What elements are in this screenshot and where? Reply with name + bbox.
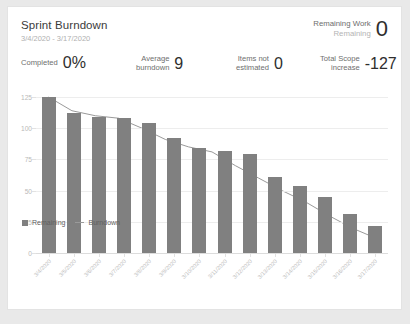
kpi-completed-label-line1: Completed (21, 58, 58, 67)
y-axis-tick-label: 0 (28, 250, 32, 257)
chart-legend: RemainingBurndown (22, 219, 120, 226)
chart-bar[interactable] (293, 186, 307, 253)
remaining-work-label-secondary: Remaining (313, 29, 371, 39)
chart-bar[interactable] (218, 151, 232, 253)
chart-bar[interactable] (243, 154, 257, 253)
x-axis-tick-label: 3/11/2020 (206, 258, 228, 280)
kpi-total-scope-increase-value: -127 (365, 55, 397, 72)
x-axis-tick-mark (250, 254, 251, 257)
y-axis-tick-label: 50 (25, 187, 32, 194)
remaining-work-value: 0 (376, 18, 388, 40)
x-axis-tick-label: 3/17/2020 (357, 258, 379, 280)
kpi-total-scope-increase: Total Scope increase -127 (320, 54, 397, 72)
kpi-completed-label: Completed (21, 58, 58, 67)
y-axis-tick-label: 125 (21, 94, 32, 101)
chart-bar[interactable] (192, 148, 206, 253)
kpi-items-not-estimated-label-line1: Items not (236, 54, 269, 63)
remaining-work-labels: Remaining Work Remaining (313, 18, 371, 39)
x-axis-tick-mark (174, 254, 175, 257)
kpi-total-scope-increase-label-line2: increase (320, 63, 360, 72)
x-axis-tick-label: 3/4/2020 (32, 258, 52, 278)
kpi-items-not-estimated: Items not estimated 0 (236, 54, 283, 72)
widget-header: Sprint Burndown 3/4/2020 - 3/17/2020 Rem… (8, 7, 401, 83)
chart-bar[interactable] (368, 226, 382, 253)
grid-line (36, 253, 388, 254)
x-axis-tick-label: 3/10/2020 (181, 258, 203, 280)
chart-bar[interactable] (92, 117, 106, 253)
remaining-work-summary: Remaining Work Remaining 0 (313, 18, 388, 46)
burndown-chart: 02550751001253/4/20203/5/20203/6/20203/7… (8, 83, 401, 309)
y-axis-tick-mark (32, 191, 36, 192)
x-axis-tick-label: 3/14/2020 (281, 258, 303, 280)
kpi-average-burndown: Average burndown 9 (136, 54, 183, 72)
legend-label: Burndown (88, 219, 120, 226)
grid-line (36, 159, 388, 160)
kpi-total-scope-increase-label: Total Scope increase (320, 54, 360, 72)
x-axis-tick-mark (325, 254, 326, 257)
y-axis-tick-label: 75 (25, 156, 32, 163)
x-axis-tick-mark (275, 254, 276, 257)
x-axis-tick-mark (225, 254, 226, 257)
y-axis-tick-mark (32, 253, 36, 254)
chart-bar[interactable] (42, 97, 56, 253)
kpi-items-not-estimated-label-line2: estimated (236, 63, 269, 72)
kpi-average-burndown-value: 9 (174, 55, 183, 72)
chart-bar[interactable] (268, 177, 282, 253)
y-axis-tick-mark (32, 97, 36, 98)
x-axis-tick-label: 3/7/2020 (108, 258, 128, 278)
x-axis-tick-label: 3/5/2020 (57, 258, 77, 278)
x-axis-tick-mark (74, 254, 75, 257)
x-axis-tick-label: 3/6/2020 (82, 258, 102, 278)
y-axis-tick-label: 100 (21, 125, 32, 132)
x-axis-tick-label: 3/15/2020 (307, 258, 329, 280)
legend-square-icon (22, 220, 28, 226)
x-axis-tick-mark (350, 254, 351, 257)
x-axis-tick-mark (375, 254, 376, 257)
grid-line (36, 97, 388, 98)
chart-bar[interactable] (343, 214, 357, 253)
grid-line (36, 191, 388, 192)
legend-item-remaining[interactable]: Remaining (22, 219, 65, 226)
kpi-total-scope-increase-label-line1: Total Scope (320, 54, 360, 63)
kpi-items-not-estimated-label: Items not estimated (236, 54, 269, 72)
date-range: 3/4/2020 - 3/17/2020 (21, 34, 90, 43)
kpi-average-burndown-label-line1: Average (136, 54, 169, 63)
x-axis-tick-mark (124, 254, 125, 257)
x-axis-tick-label: 3/16/2020 (332, 258, 354, 280)
chart-bar[interactable] (117, 118, 131, 253)
chart-bar[interactable] (142, 123, 156, 253)
kpi-average-burndown-label: Average burndown (136, 54, 169, 72)
kpi-completed-value: 0% (63, 54, 86, 71)
burndown-trend-line (36, 97, 388, 254)
legend-line-icon (75, 222, 84, 223)
x-axis-tick-mark (149, 254, 150, 257)
x-axis-tick-mark (199, 254, 200, 257)
chart-bar[interactable] (67, 113, 81, 253)
sprint-burndown-widget: Sprint Burndown 3/4/2020 - 3/17/2020 Rem… (8, 7, 401, 309)
kpi-average-burndown-label-line2: burndown (136, 63, 169, 72)
kpi-items-not-estimated-value: 0 (274, 55, 283, 72)
legend-item-burndown[interactable]: Burndown (75, 219, 120, 226)
x-axis-tick-mark (300, 254, 301, 257)
chart-plot-area: 02550751001253/4/20203/5/20203/6/20203/7… (36, 97, 388, 254)
x-axis-tick-label: 3/8/2020 (133, 258, 153, 278)
remaining-work-label-primary: Remaining Work (313, 19, 371, 29)
kpi-completed: Completed 0% (21, 54, 86, 71)
grid-line (36, 128, 388, 129)
chart-bar[interactable] (167, 138, 181, 253)
x-axis-tick-mark (49, 254, 50, 257)
y-axis-tick-mark (32, 128, 36, 129)
legend-label: Remaining (32, 219, 65, 226)
x-axis-tick-mark (99, 254, 100, 257)
x-axis-tick-label: 3/9/2020 (158, 258, 178, 278)
x-axis-tick-label: 3/13/2020 (256, 258, 278, 280)
chart-bar[interactable] (318, 197, 332, 253)
y-axis-tick-mark (32, 159, 36, 160)
x-axis-tick-label: 3/12/2020 (231, 258, 253, 280)
page-title: Sprint Burndown (21, 19, 108, 31)
